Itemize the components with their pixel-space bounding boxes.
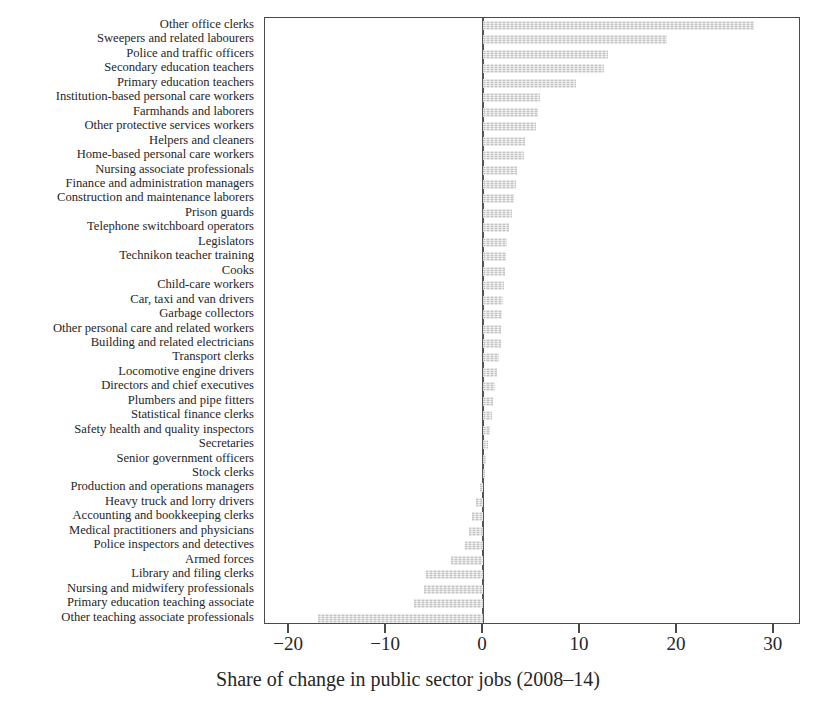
bar-row	[265, 90, 799, 104]
bar-row	[265, 293, 799, 307]
bar-row	[265, 322, 799, 336]
category-label: Police and traffic officers	[126, 46, 254, 60]
category-label: Technikon teacher training	[119, 248, 254, 262]
bar	[483, 310, 502, 319]
category-label: Stock clerks	[192, 465, 254, 479]
bar	[483, 137, 525, 146]
bar	[483, 440, 488, 449]
category-label: Construction and maintenance laborers	[57, 190, 254, 204]
bar	[483, 339, 500, 348]
bar	[469, 527, 484, 536]
plot-inner	[265, 18, 799, 623]
category-label: Accounting and bookkeeping clerks	[72, 508, 254, 522]
bar-row	[265, 408, 799, 422]
bar	[483, 455, 486, 464]
bar	[472, 512, 483, 521]
bar	[483, 209, 512, 218]
category-label: Prison guards	[185, 205, 254, 219]
bar-row	[265, 134, 799, 148]
bar	[483, 151, 524, 160]
category-label: Other teaching associate professionals	[61, 610, 254, 624]
bar	[483, 108, 538, 117]
bar	[483, 194, 514, 203]
horizontal-bar-chart: Other office clerksSweepers and related …	[0, 0, 816, 712]
x-axis-title: Share of change in public sector jobs (2…	[0, 668, 816, 691]
category-label: Building and related electricians	[91, 335, 254, 349]
bar	[318, 614, 483, 623]
bar-row	[265, 350, 799, 364]
bar-row	[265, 264, 799, 278]
bar	[483, 93, 540, 102]
bar-row	[265, 18, 799, 32]
x-axis-tick-label: 0	[477, 633, 487, 655]
bar	[465, 541, 483, 550]
category-label: Armed forces	[185, 552, 254, 566]
bar	[483, 296, 503, 305]
bar	[483, 79, 576, 88]
x-axis-tick	[772, 624, 774, 633]
bar	[483, 238, 507, 247]
category-label: Farmhands and laborers	[133, 104, 254, 118]
category-label: Primary education teaching associate	[67, 595, 254, 609]
bar	[483, 223, 509, 232]
category-label: Home-based personal care workers	[77, 147, 254, 161]
category-label: Cooks	[222, 263, 254, 277]
bar-row	[265, 466, 799, 480]
bar-row	[265, 437, 799, 451]
bar-row	[265, 495, 799, 509]
bar-row	[265, 553, 799, 567]
category-label: Senior government officers	[116, 451, 254, 465]
category-label: Sweepers and related labourers	[97, 31, 254, 45]
category-label: Police inspectors and detectives	[93, 537, 254, 551]
bar	[483, 368, 497, 377]
bar	[483, 469, 485, 478]
plot-area	[264, 17, 800, 624]
bar-row	[265, 307, 799, 321]
bar	[414, 599, 483, 608]
bar	[476, 498, 483, 507]
bar-row	[265, 538, 799, 552]
bar-row	[265, 611, 799, 625]
category-label: Helpers and cleaners	[149, 133, 254, 147]
bar	[483, 21, 754, 30]
x-axis-tick	[481, 624, 483, 633]
category-label: Locomotive engine drivers	[118, 364, 254, 378]
category-label: Heavy truck and lorry drivers	[105, 494, 254, 508]
category-label: Legislators	[198, 234, 254, 248]
bar-row	[265, 365, 799, 379]
x-axis-tick-label: 20	[666, 633, 685, 655]
bar-row	[265, 206, 799, 220]
category-label: Institution-based personal care workers	[56, 89, 254, 103]
bar-row	[265, 394, 799, 408]
bar-row	[265, 452, 799, 466]
bar-row	[265, 32, 799, 46]
x-axis-tick	[287, 624, 289, 633]
x-axis-tick-label: −10	[370, 633, 400, 655]
bar	[483, 411, 492, 420]
x-axis-tick-label: −20	[273, 633, 303, 655]
bar-row	[265, 61, 799, 75]
bar	[483, 64, 604, 73]
bar	[483, 325, 501, 334]
bar	[483, 281, 504, 290]
category-label: Transport clerks	[172, 349, 254, 363]
bar-row	[265, 379, 799, 393]
category-label: Child-care workers	[157, 277, 254, 291]
category-axis-labels: Other office clerksSweepers and related …	[0, 17, 260, 624]
bar	[483, 267, 505, 276]
category-label: Plumbers and pipe fitters	[128, 393, 254, 407]
x-axis-tick	[578, 624, 580, 633]
category-label: Secretaries	[199, 436, 254, 450]
x-axis-tick-label: 10	[570, 633, 589, 655]
bar-row	[265, 249, 799, 263]
bar-row	[265, 336, 799, 350]
category-label: Directors and chief executives	[101, 378, 254, 392]
bar	[483, 180, 516, 189]
bar	[483, 382, 495, 391]
category-label: Other office clerks	[160, 17, 254, 31]
bar-row	[265, 423, 799, 437]
bar-row	[265, 524, 799, 538]
bar	[480, 483, 483, 492]
bar-row	[265, 191, 799, 205]
category-label: Garbage collectors	[159, 306, 254, 320]
